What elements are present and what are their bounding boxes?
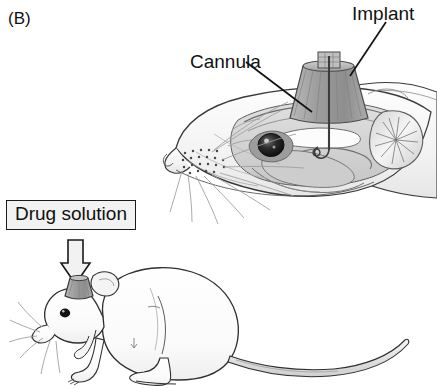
mouse-ear (91, 272, 119, 296)
mouse-eye (60, 309, 70, 318)
panel-label: (B) (8, 10, 31, 27)
implant-label: Implant (352, 4, 414, 23)
mouse-eye-highlight (62, 310, 64, 312)
mouse-implant (65, 275, 93, 299)
cannula-label: Cannula (190, 52, 261, 71)
drug-solution-label-box: Drug solution (6, 200, 136, 230)
cerebellum (370, 111, 423, 169)
